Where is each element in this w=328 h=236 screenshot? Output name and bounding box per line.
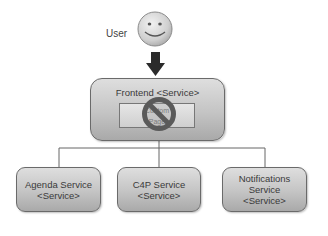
smiley-face-icon [137,11,173,47]
notifications-service-label: Notifications Service <Service> [239,173,291,206]
arrow-down-icon [146,52,165,77]
agenda-service-label: Agenda Service <Service> [25,179,92,201]
no-entry-icon [141,96,177,132]
c4p-service-box[interactable]: C4P Service <Service> [117,167,201,212]
notifications-service-box[interactable]: Notifications Service <Service> [222,167,307,212]
user-label: User [106,28,127,39]
agenda-service-box[interactable]: Agenda Service <Service> [16,167,101,212]
c4p-service-label: C4P Service <Service> [133,179,186,201]
